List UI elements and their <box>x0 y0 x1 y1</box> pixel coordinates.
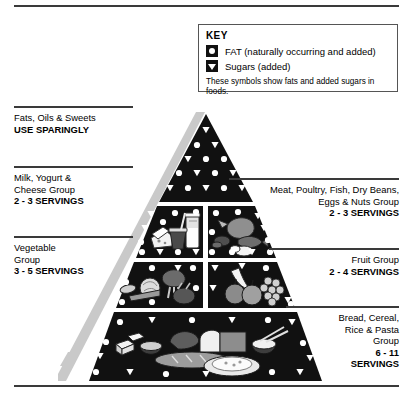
fat-circle-icon <box>206 45 218 57</box>
label-meat-servings: 2 - 3 SERVINGS <box>229 207 399 219</box>
sugar-triangle-icon <box>206 60 218 72</box>
label-bread-cereal-rice-pasta: Bread, Cereal, Rice & Pasta Group 6 - 11… <box>286 306 399 370</box>
label-vegetable-servings: 3 - 5 SERVINGS <box>14 265 133 277</box>
label-rule <box>14 236 133 238</box>
label-bread-servings-line1: 6 - 11 <box>286 347 399 359</box>
label-milk-yogurt-cheese: Milk, Yogurt & Cheese Group 2 - 3 SERVIN… <box>14 166 133 207</box>
bread-slices-icon <box>200 330 246 352</box>
label-fruit-servings: 2 - 4 SERVINGS <box>269 266 399 278</box>
label-milk-line1: Milk, Yogurt & <box>14 172 133 184</box>
label-vegetable-line1: Vegetable <box>14 242 133 254</box>
label-bread-line2: Rice & Pasta <box>286 324 399 336</box>
key-item-sugars-label: Sugars (added) <box>225 61 290 72</box>
key-item-fat-label: FAT (naturally occurring and added) <box>225 46 376 57</box>
pasta-plate-icon <box>204 356 260 376</box>
cereal-bowl-icon <box>140 342 162 355</box>
label-rule <box>14 106 133 108</box>
key-title: KEY <box>206 30 390 42</box>
label-milk-servings: 2 - 3 SERVINGS <box>14 195 133 207</box>
key-note: These symbols show fats and added sugars… <box>206 77 390 97</box>
label-meat-line2: Eggs & Nuts Group <box>229 196 399 208</box>
label-meat-line1: Meat, Poultry, Fish, Dry Beans, <box>229 184 399 196</box>
key-item-sugars: Sugars (added) <box>206 60 390 72</box>
label-rule <box>286 306 399 308</box>
key-item-fat: FAT (naturally occurring and added) <box>206 45 390 57</box>
label-fats-oils-sweets-name: Fats, Oils & Sweets <box>14 112 133 124</box>
label-rule <box>269 248 399 250</box>
label-bread-line3: Group <box>286 335 399 347</box>
label-rule <box>229 178 399 180</box>
label-milk-line2: Cheese Group <box>14 184 133 196</box>
key-legend-box: KEY FAT (naturally occurring and added) … <box>198 24 398 92</box>
food-pyramid-diagram: KEY FAT (naturally occurring and added) … <box>0 0 413 400</box>
label-bread-servings-line2: SERVINGS <box>286 358 399 370</box>
label-vegetable: Vegetable Group 3 - 5 SERVINGS <box>14 236 133 277</box>
label-meat-poultry-fish: Meat, Poultry, Fish, Dry Beans, Eggs & N… <box>229 178 399 219</box>
label-fruit-line1: Fruit Group <box>269 254 399 266</box>
label-fats-oils-sweets-servings: USE SPARINGLY <box>14 124 133 136</box>
label-bread-line1: Bread, Cereal, <box>286 312 399 324</box>
label-rule <box>14 166 133 168</box>
label-vegetable-line2: Group <box>14 254 133 266</box>
label-fruit: Fruit Group 2 - 4 SERVINGS <box>269 248 399 277</box>
label-fats-oils-sweets: Fats, Oils & Sweets USE SPARINGLY <box>14 106 133 135</box>
